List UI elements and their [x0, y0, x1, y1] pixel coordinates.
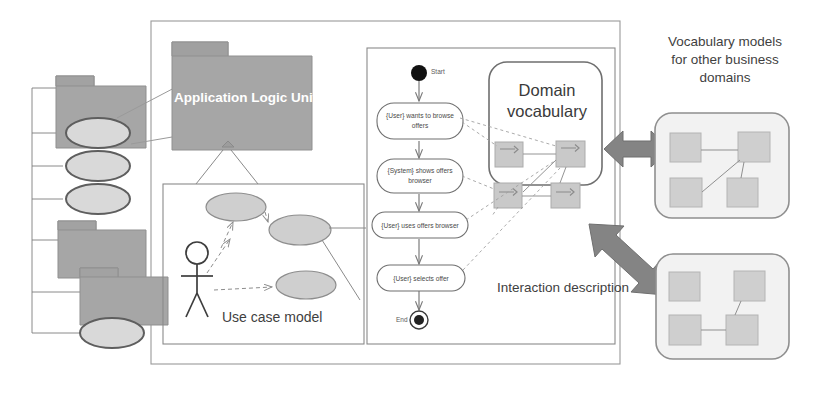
activity-step-2-label: {System} shows offers browser — [379, 166, 461, 186]
use-case-ellipse-3[interactable] — [276, 271, 336, 299]
activity-start-label: Start — [431, 68, 445, 76]
use-case-ellipse-2[interactable] — [269, 215, 331, 245]
application-logic-unit-label: Application Logic Unit — [174, 90, 314, 106]
left-ellipse-2[interactable] — [66, 184, 130, 214]
activity-end-node[interactable] — [410, 311, 428, 329]
diagram-canvas: Application Logic Unit Use case model In… — [0, 0, 822, 394]
activity-end-label: End — [396, 316, 408, 324]
activity-step-3-label: {User} uses offers browser — [373, 221, 467, 230]
use-case-relations — [207, 212, 272, 290]
vocabulary-concept-1[interactable] — [495, 142, 523, 167]
left-package-2[interactable] — [80, 268, 168, 325]
activity-step-4-label: {User} selects offer — [379, 274, 463, 283]
interaction-description-label: Interaction description — [497, 280, 629, 297]
activity-step-1-label: {User} wants to browse offers — [379, 111, 461, 131]
domain-vocabulary-label: Domain vocabulary — [497, 80, 597, 121]
use-case-ellipse-1[interactable] — [206, 193, 266, 221]
left-ellipse-1[interactable] — [66, 151, 130, 181]
use-case-model-label: Use case model — [222, 309, 322, 327]
vocabulary-concept-3[interactable] — [494, 183, 522, 208]
vocabulary-concept-4[interactable] — [551, 183, 580, 208]
left-ellipse-3[interactable] — [80, 318, 144, 348]
actor-stick-figure[interactable] — [181, 242, 213, 317]
side-note-label: Vocabulary models for other business dom… — [650, 33, 800, 88]
activity-start-node[interactable] — [411, 65, 427, 81]
vocabulary-concept-2[interactable] — [556, 141, 585, 167]
left-ellipse-0[interactable] — [66, 118, 130, 148]
